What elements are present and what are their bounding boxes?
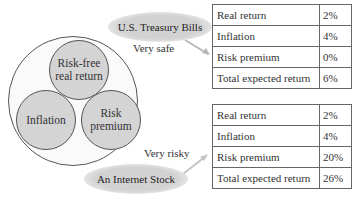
row-value: 26% (320, 168, 352, 189)
table-row: Real return 2% (213, 5, 352, 26)
row-label: Risk premium (213, 47, 320, 68)
table-row: Inflation 4% (213, 126, 352, 147)
treasury-bills-label: U.S. Treasury Bills (108, 12, 212, 42)
row-label: Total expected return (213, 168, 320, 189)
internet-stock-text: An Internet Stock (97, 173, 175, 185)
internet-stock-return-table: Real return 2% Inflation 4% Risk premium… (212, 104, 352, 189)
row-label: Risk premium (213, 147, 320, 168)
row-label: Total expected return (213, 68, 320, 89)
row-value: 2% (320, 5, 352, 26)
very-risky-note: Very risky (144, 147, 190, 159)
row-label: Real return (213, 105, 320, 126)
table-row: Total expected return 6% (213, 68, 352, 89)
row-label: Real return (213, 5, 320, 26)
treasury-bills-return-table: Real return 2% Inflation 4% Risk premium… (212, 4, 352, 89)
very-safe-note: Very safe (133, 42, 174, 54)
row-value: 2% (320, 105, 352, 126)
table-row: Real return 2% (213, 105, 352, 126)
row-label: Inflation (213, 126, 320, 147)
row-value: 0% (320, 47, 352, 68)
treasury-bills-text: U.S. Treasury Bills (118, 21, 202, 33)
row-value: 4% (320, 126, 352, 147)
row-value: 6% (320, 68, 352, 89)
row-label: Inflation (213, 26, 320, 47)
row-value: 20% (320, 147, 352, 168)
table-row: Inflation 4% (213, 26, 352, 47)
table-row: Total expected return 26% (213, 168, 352, 189)
table-row: Risk premium 0% (213, 47, 352, 68)
row-value: 4% (320, 26, 352, 47)
table-row: Risk premium 20% (213, 147, 352, 168)
internet-stock-label: An Internet Stock (84, 164, 188, 194)
